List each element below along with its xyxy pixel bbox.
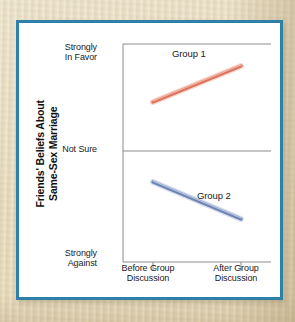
series-line-group-1 <box>153 65 241 102</box>
ytick-label-not-sure-line-1: Not Sure <box>25 144 97 154</box>
ytick-label-strongly-in-favor-line-1: Strongly <box>25 42 97 52</box>
ytick-label-strongly-against-line-2: Against <box>25 258 97 268</box>
xtick-label-before-line-2: Discussion <box>105 273 191 283</box>
ytick-label-not-sure: Not Sure <box>25 144 97 154</box>
figure-card-inner: Friends' Beliefs About Same-Sex Marriage… <box>19 23 280 297</box>
ytick-label-strongly-in-favor-line-2: In Favor <box>25 52 97 62</box>
xtick-label-before-group-discussion: Before Group Discussion <box>105 263 191 283</box>
series-label-group-1: Group 1 <box>172 49 206 60</box>
ytick-label-strongly-against: Strongly Against <box>25 248 97 268</box>
xtick-label-after-group-discussion: After Group Discussion <box>193 263 279 283</box>
figure-card: Friends' Beliefs About Same-Sex Marriage… <box>16 20 283 300</box>
ytick-label-strongly-in-favor: Strongly In Favor <box>25 42 97 62</box>
xtick-label-after-line-1: After Group <box>193 263 279 273</box>
xtick-label-before-line-1: Before Group <box>105 263 191 273</box>
ytick-label-strongly-against-line-1: Strongly <box>25 248 97 258</box>
series-label-group-2: Group 2 <box>197 191 231 202</box>
xtick-label-after-line-2: Discussion <box>193 273 279 283</box>
